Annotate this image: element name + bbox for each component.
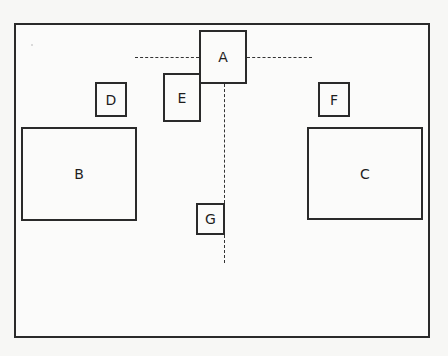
box-f-label: F bbox=[330, 92, 338, 108]
box-a: A bbox=[199, 30, 247, 84]
box-f: F bbox=[318, 82, 350, 117]
box-b-label: B bbox=[74, 166, 84, 182]
box-a-label: A bbox=[218, 49, 228, 65]
box-c-label: C bbox=[360, 166, 370, 182]
box-d: D bbox=[95, 82, 127, 117]
box-d-label: D bbox=[106, 92, 117, 108]
box-b: B bbox=[21, 127, 137, 221]
box-e: E bbox=[163, 73, 201, 122]
scan-speck bbox=[31, 44, 33, 46]
dashed-line-horizontal-right bbox=[247, 57, 312, 58]
dashed-line-horizontal-left bbox=[135, 57, 199, 58]
box-c: C bbox=[307, 127, 423, 220]
box-e-label: E bbox=[178, 90, 187, 106]
dashed-line-vertical-upper bbox=[224, 84, 225, 203]
dashed-line-vertical-lower bbox=[224, 235, 225, 263]
box-g-label: G bbox=[205, 211, 216, 227]
box-g: G bbox=[196, 203, 225, 235]
